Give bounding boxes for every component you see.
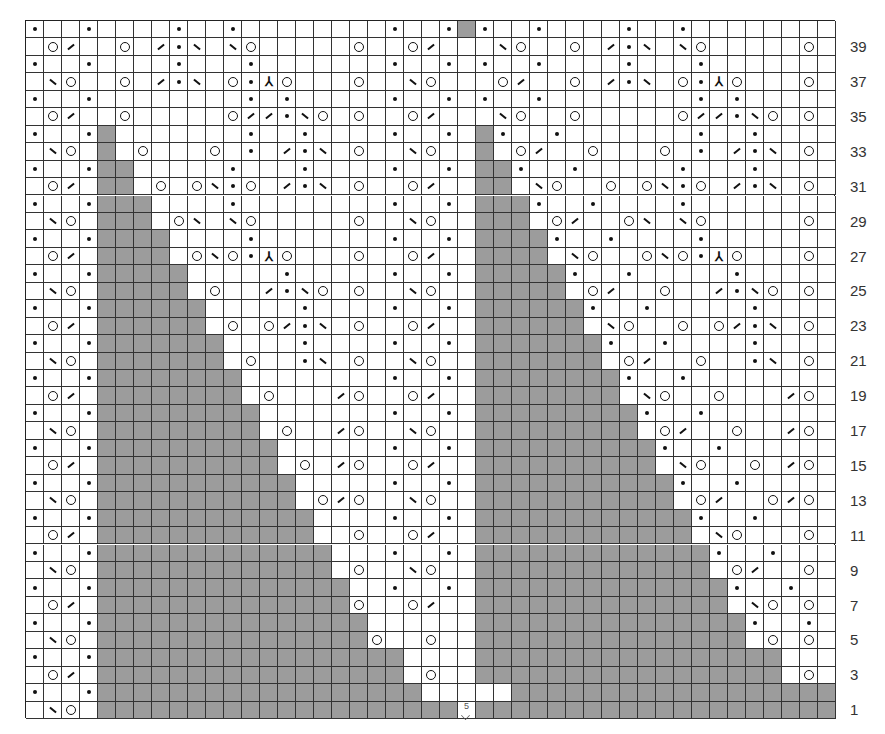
chart-cell xyxy=(332,126,350,143)
no-stitch-cell xyxy=(188,614,206,631)
no-stitch-cell xyxy=(152,527,170,544)
ssk-icon xyxy=(49,148,56,155)
purl-dot-icon xyxy=(699,80,703,84)
row-number-label: 31 xyxy=(850,179,880,194)
purl-dot-icon xyxy=(87,97,91,101)
no-stitch-cell xyxy=(260,684,278,701)
chart-cell xyxy=(422,667,440,684)
no-stitch-cell xyxy=(242,684,260,701)
chart-cell xyxy=(548,213,566,230)
no-stitch-cell xyxy=(242,405,260,422)
chart-cell xyxy=(152,56,170,73)
chart-cell xyxy=(458,387,476,404)
no-stitch-cell xyxy=(692,632,710,649)
purl-dot-icon xyxy=(645,306,649,310)
chart-cell xyxy=(368,21,386,38)
no-stitch-cell xyxy=(116,335,134,352)
chart-cell xyxy=(314,143,332,160)
purl-dot-icon xyxy=(393,551,397,555)
no-stitch-cell xyxy=(134,632,152,649)
no-stitch-cell xyxy=(548,667,566,684)
no-stitch-cell xyxy=(620,457,638,474)
chart-cell xyxy=(242,108,260,125)
no-stitch-cell xyxy=(170,387,188,404)
no-stitch-cell xyxy=(188,422,206,439)
chart-cell xyxy=(692,265,710,282)
chart-cell xyxy=(44,38,62,55)
k2tog-icon xyxy=(337,392,344,399)
k2tog-icon xyxy=(265,288,272,295)
chart-cell xyxy=(800,178,818,195)
chart-cell xyxy=(62,684,80,701)
yarn-over-icon xyxy=(768,495,778,505)
chart-cell xyxy=(26,126,44,143)
chart-cell xyxy=(746,91,764,108)
no-stitch-cell xyxy=(476,248,494,265)
chart-cell xyxy=(278,73,296,90)
chart-cell xyxy=(44,702,62,719)
no-stitch-cell xyxy=(548,527,566,544)
chart-cell xyxy=(332,475,350,492)
chart-cell xyxy=(134,178,152,195)
chart-cell xyxy=(224,335,242,352)
chart-cell xyxy=(422,335,440,352)
row-number-label: 3 xyxy=(850,667,880,682)
no-stitch-cell xyxy=(584,440,602,457)
chart-cell xyxy=(206,56,224,73)
no-stitch-cell xyxy=(116,318,134,335)
chart-cell xyxy=(782,56,800,73)
chart-cell xyxy=(332,300,350,317)
no-stitch-cell xyxy=(224,684,242,701)
no-stitch-cell xyxy=(494,370,512,387)
chart-cell xyxy=(26,213,44,230)
yarn-over-icon xyxy=(768,286,778,296)
chart-cell xyxy=(818,510,836,527)
chart-cell xyxy=(332,56,350,73)
chart-cell xyxy=(422,283,440,300)
chart-cell xyxy=(746,318,764,335)
chart-cell xyxy=(404,667,422,684)
chart-cell xyxy=(404,597,422,614)
purl-dot-icon xyxy=(447,376,451,380)
chart-cell xyxy=(206,196,224,213)
chart-cell xyxy=(692,492,710,509)
no-stitch-cell xyxy=(548,510,566,527)
chart-cell xyxy=(404,213,422,230)
yarn-over-icon xyxy=(768,635,778,645)
no-stitch-cell xyxy=(170,614,188,631)
no-stitch-cell xyxy=(296,667,314,684)
chart-cell xyxy=(422,91,440,108)
chart-cell xyxy=(710,510,728,527)
no-stitch-cell xyxy=(206,597,224,614)
chart-cell xyxy=(638,405,656,422)
no-stitch-cell xyxy=(98,684,116,701)
chart-cell xyxy=(368,161,386,178)
chart-cell xyxy=(386,21,404,38)
ssk-icon xyxy=(301,113,308,120)
chart-cell xyxy=(638,126,656,143)
no-stitch-cell xyxy=(530,370,548,387)
chart-cell xyxy=(62,143,80,160)
chart-cell xyxy=(260,422,278,439)
yarn-over-icon xyxy=(570,42,580,52)
chart-cell xyxy=(350,213,368,230)
chart-cell xyxy=(530,126,548,143)
no-stitch-cell xyxy=(494,440,512,457)
chart-cell xyxy=(818,21,836,38)
no-stitch-cell xyxy=(476,161,494,178)
chart-cell xyxy=(44,230,62,247)
no-stitch-cell xyxy=(98,562,116,579)
no-stitch-cell xyxy=(530,667,548,684)
yarn-over-icon xyxy=(246,356,256,366)
yarn-over-icon xyxy=(354,286,364,296)
chart-cell xyxy=(440,230,458,247)
purl-dot-icon xyxy=(447,27,451,31)
no-stitch-cell xyxy=(602,370,620,387)
chart-cell xyxy=(404,300,422,317)
chart-cell xyxy=(80,126,98,143)
chart-cell xyxy=(674,353,692,370)
chart-cell xyxy=(314,475,332,492)
chart-cell xyxy=(98,73,116,90)
chart-cell xyxy=(440,108,458,125)
chart-cell xyxy=(170,56,188,73)
